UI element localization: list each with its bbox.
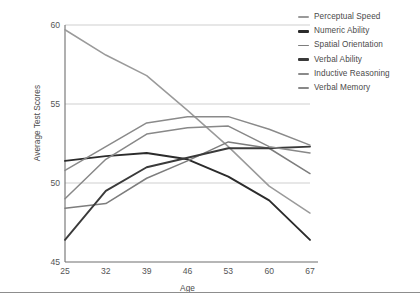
series-line [65, 30, 310, 213]
chart-legend: Perceptual SpeedNumeric AbilitySpatial O… [298, 10, 420, 95]
y-tick-label: 45 [38, 257, 60, 267]
line-chart-figure: 45505560 25323946536067 Average Test Sco… [0, 0, 420, 304]
legend-item-label: Verbal Memory [314, 84, 370, 92]
legend-line-icon [298, 16, 309, 18]
legend-line-icon [298, 73, 309, 75]
legend-item-label: Perceptual Speed [314, 13, 380, 21]
footer-divider [0, 292, 420, 293]
legend-item[interactable]: Spatial Orientation [298, 38, 420, 52]
legend-item[interactable]: Verbal Memory [298, 81, 420, 95]
legend-line-icon [298, 87, 309, 89]
legend-item-label: Verbal Ability [314, 56, 362, 64]
legend-item[interactable]: Inductive Reasoning [298, 67, 420, 81]
y-tick-label: 60 [38, 20, 60, 30]
series-line [65, 142, 310, 208]
legend-item-label: Inductive Reasoning [314, 70, 390, 78]
legend-item[interactable]: Verbal Ability [298, 53, 420, 67]
legend-item-label: Spatial Orientation [314, 41, 383, 49]
legend-item[interactable]: Perceptual Speed [298, 10, 420, 24]
y-tick-label: 50 [38, 178, 60, 188]
x-tick-label: 53 [215, 266, 241, 276]
series-lines [65, 30, 310, 240]
series-line [65, 126, 310, 199]
x-tick-label: 32 [93, 266, 119, 276]
x-tick-label: 25 [52, 266, 78, 276]
x-tick-label: 46 [175, 266, 201, 276]
legend-line-icon [298, 45, 309, 47]
legend-item[interactable]: Numeric Ability [298, 24, 420, 38]
legend-line-icon [298, 30, 309, 33]
x-tick-label: 39 [134, 266, 160, 276]
y-axis-label: Average Test Scores [32, 68, 42, 178]
axis-lines [65, 25, 318, 262]
legend-item-label: Numeric Ability [314, 27, 369, 35]
x-tick-label: 60 [256, 266, 282, 276]
x-tick-label: 67 [297, 266, 323, 276]
legend-line-icon [298, 58, 309, 61]
